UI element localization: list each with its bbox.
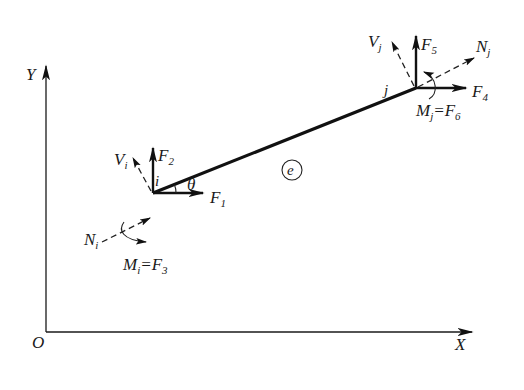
axial-nj-arrow	[418, 58, 474, 87]
moment-mj-arrow	[424, 72, 435, 99]
beam-element-force-diagram: O X Y e F1 F2 i θ Vi Ni Mi=F3 F4	[0, 0, 524, 390]
moment-mj-label: Mj=F6	[415, 101, 461, 122]
element-label: e	[287, 162, 294, 178]
theta-angle-arc	[174, 185, 176, 194]
node-j-label: j	[382, 82, 388, 98]
y-axis-label: Y	[26, 65, 37, 84]
node-i-label: i	[155, 173, 159, 189]
force-f1-label: F1	[209, 188, 226, 209]
x-axis-label: X	[454, 335, 466, 354]
moment-mi-arrow	[122, 222, 146, 242]
theta-label: θ	[187, 175, 195, 194]
force-f5-label: F5	[420, 35, 437, 56]
shear-vj-label: Vj	[368, 32, 381, 53]
node-j-forces: F4 F5 j Vj Nj Mj=F6	[368, 32, 490, 122]
force-f4-label: F4	[471, 82, 488, 103]
moment-mi-label: Mi=F3	[122, 255, 168, 276]
shear-vj-arrow	[392, 42, 414, 86]
node-i-forces: F1 F2 i θ Vi Ni Mi=F3	[83, 146, 226, 276]
shear-vi-label: Vi	[114, 150, 127, 171]
origin-label: O	[32, 333, 44, 352]
coordinate-axes: O X Y	[26, 65, 472, 354]
axial-ni-label: Ni	[83, 230, 98, 251]
force-f2-label: F2	[157, 146, 174, 167]
shear-vi-arrow	[133, 158, 151, 191]
axial-ni-arrow	[102, 218, 150, 242]
axial-nj-label: Nj	[475, 37, 490, 58]
